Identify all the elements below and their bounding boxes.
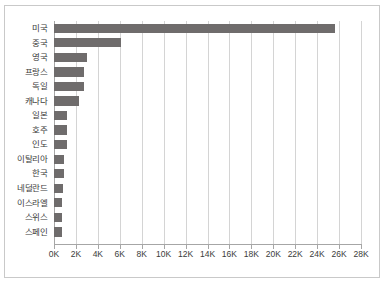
bar-row bbox=[54, 50, 361, 65]
bar[interactable] bbox=[54, 169, 64, 178]
category-label: 이스라엘 bbox=[5, 196, 52, 211]
category-label: 이탈리아 bbox=[5, 152, 52, 167]
axis-tick-label: 18K bbox=[244, 249, 259, 259]
axis-tick bbox=[339, 245, 340, 249]
category-label: 호주 bbox=[5, 123, 52, 138]
axis-tick bbox=[251, 245, 252, 249]
bar[interactable] bbox=[54, 96, 79, 105]
axis-tick bbox=[273, 245, 274, 249]
category-label: 중국 bbox=[5, 36, 52, 51]
axis-tick-label: 0K bbox=[49, 249, 59, 259]
bar[interactable] bbox=[54, 125, 67, 134]
axis-tick-label: 10K bbox=[156, 249, 171, 259]
bar[interactable] bbox=[54, 140, 67, 149]
bar[interactable] bbox=[54, 38, 121, 47]
axis-tick-label: 24K bbox=[310, 249, 325, 259]
bar-row bbox=[54, 123, 361, 138]
bar-row bbox=[54, 108, 361, 123]
axis-tick-label: 22K bbox=[288, 249, 303, 259]
axis-tick bbox=[229, 245, 230, 249]
axis-tick-label: 20K bbox=[266, 249, 281, 259]
bar[interactable] bbox=[54, 67, 84, 76]
axis-tick-label: 26K bbox=[332, 249, 347, 259]
category-label: 네덜란드 bbox=[5, 181, 52, 196]
axis-tick bbox=[317, 245, 318, 249]
bar[interactable] bbox=[54, 53, 87, 62]
axis-tick-label: 6K bbox=[115, 249, 125, 259]
category-label: 영국 bbox=[5, 50, 52, 65]
axis-tick-label: 12K bbox=[178, 249, 193, 259]
axis-tick bbox=[164, 245, 165, 249]
axis-tick-label: 4K bbox=[93, 249, 103, 259]
category-label: 스위스 bbox=[5, 210, 52, 225]
bar-row bbox=[54, 137, 361, 152]
bar-row bbox=[54, 79, 361, 94]
bar[interactable] bbox=[54, 184, 63, 193]
chart-frame: 미국중국영국프랑스독일캐나다일본호주인도이탈리아한국네덜란드이스라엘스위스스페인… bbox=[4, 5, 380, 278]
axis-tick bbox=[361, 245, 362, 249]
axis-tick bbox=[142, 245, 143, 249]
plot-area bbox=[54, 21, 361, 244]
axis-tick bbox=[76, 245, 77, 249]
x-axis-labels: 0K2K4K6K8K10K12K14K16K18K20K22K24K26K28K bbox=[54, 249, 361, 265]
category-label: 독일 bbox=[5, 79, 52, 94]
axis-tick-label: 16K bbox=[222, 249, 237, 259]
bar-row bbox=[54, 166, 361, 181]
bar[interactable] bbox=[54, 155, 64, 164]
bar[interactable] bbox=[54, 198, 62, 207]
axis-tick-label: 2K bbox=[71, 249, 81, 259]
category-label: 일본 bbox=[5, 108, 52, 123]
bar-row bbox=[54, 65, 361, 80]
bar-row bbox=[54, 196, 361, 211]
bar-row bbox=[54, 210, 361, 225]
axis-tick bbox=[120, 245, 121, 249]
bar-row bbox=[54, 225, 361, 240]
category-label: 스페인 bbox=[5, 225, 52, 240]
category-label: 프랑스 bbox=[5, 65, 52, 80]
category-axis: 미국중국영국프랑스독일캐나다일본호주인도이탈리아한국네덜란드이스라엘스위스스페인 bbox=[5, 21, 52, 244]
gridline bbox=[361, 21, 362, 244]
bar-row bbox=[54, 36, 361, 51]
axis-tick bbox=[295, 245, 296, 249]
bar-series bbox=[54, 21, 361, 244]
axis-tick bbox=[186, 245, 187, 249]
axis-tick-label: 8K bbox=[137, 249, 147, 259]
category-label: 캐나다 bbox=[5, 94, 52, 109]
bar-row bbox=[54, 181, 361, 196]
axis-tick bbox=[208, 245, 209, 249]
category-label: 미국 bbox=[5, 21, 52, 36]
bar-row bbox=[54, 94, 361, 109]
bar-row bbox=[54, 21, 361, 36]
axis-tick-label: 28K bbox=[353, 249, 368, 259]
chart-plot-wrapper: 미국중국영국프랑스독일캐나다일본호주인도이탈리아한국네덜란드이스라엘스위스스페인… bbox=[5, 6, 379, 277]
bar[interactable] bbox=[54, 82, 84, 91]
axis-tick bbox=[98, 245, 99, 249]
bar-row bbox=[54, 152, 361, 167]
bar[interactable] bbox=[54, 227, 62, 236]
category-label: 한국 bbox=[5, 166, 52, 181]
axis-tick bbox=[54, 245, 55, 249]
axis-tick-label: 14K bbox=[200, 249, 215, 259]
bar[interactable] bbox=[54, 111, 67, 120]
category-label: 인도 bbox=[5, 137, 52, 152]
bar[interactable] bbox=[54, 213, 62, 222]
bar[interactable] bbox=[54, 24, 335, 33]
